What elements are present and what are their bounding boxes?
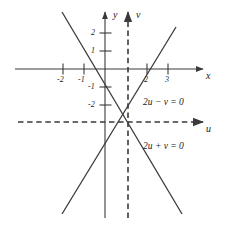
y-tick-label--1: -1 — [88, 82, 95, 91]
x-tick-label--2: -2 — [57, 75, 64, 84]
line-2u-minus-v — [62, 27, 176, 214]
plot-canvas — [0, 0, 226, 228]
y-tick-label-1: 1 — [91, 46, 95, 55]
y-axis-label: y — [113, 9, 117, 20]
x-tick-label-3: 3 — [165, 75, 169, 84]
figure-container: y v x u -2 -1 2 3 2 1 -1 -2 2u − v = 0 2… — [0, 0, 226, 228]
y-tick-label-2: 2 — [91, 28, 95, 37]
equation-label-lower: 2u + v = 0 — [143, 141, 184, 151]
y-tick-label--2: -2 — [88, 100, 95, 109]
x-axis-label: x — [206, 70, 210, 81]
equation-label-upper: 2u − v = 0 — [143, 97, 184, 107]
x-tick-label-2: 2 — [144, 75, 148, 84]
v-axis-label: v — [136, 9, 140, 20]
x-tick-label--1: -1 — [78, 75, 85, 84]
u-axis-label: u — [206, 123, 211, 134]
